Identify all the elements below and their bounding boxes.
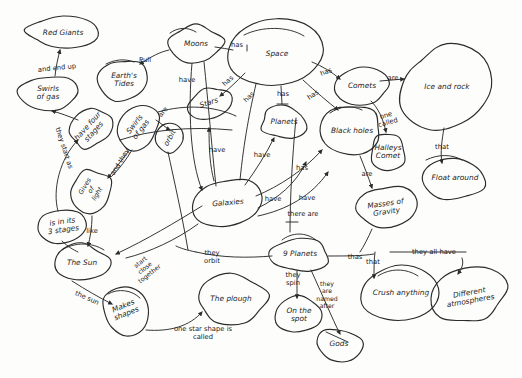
node-label-crush: Crush anything — [373, 288, 430, 297]
link-label-l_thas: thas — [348, 253, 363, 261]
node-label-moons: Moons — [184, 39, 208, 48]
node-label-ice_rock: Ice and rock — [424, 82, 470, 91]
node-red_giants[interactable]: Red Giants — [24, 16, 98, 48]
edge-galaxies-planets — [245, 138, 274, 185]
node-orbit[interactable]: orbit — [150, 118, 188, 157]
link-label-l_that_crush: that — [366, 258, 380, 266]
node-label-swirls_gas2: Swirlsof gas — [124, 112, 152, 140]
edge-crush-tophook — [378, 270, 418, 276]
node-on_the_spot[interactable]: On thespot — [275, 295, 322, 332]
node-label-swirls_gas: Swirlsof gas — [37, 84, 60, 101]
node-label-gives_light: Givesoflight — [77, 176, 106, 204]
link-label-l_one_star: one star shape iscalled — [174, 325, 233, 340]
node-the_sun[interactable]: The Sun — [55, 243, 111, 280]
node-black_holes[interactable]: Black holes — [320, 107, 379, 155]
nodes-layer: Red GiantsSwirlsof gasEarth'sTidesMoonsS… — [17, 16, 513, 362]
node-label-halleys: HalleysComet — [375, 143, 402, 160]
link-label-l_named_after: theyarenamedafter — [316, 280, 338, 309]
link-label-l_have_moons: have — [179, 76, 196, 84]
node-label-float_around: Float around — [432, 173, 479, 182]
link-label-l_the_sun: the sun — [74, 289, 101, 307]
link-label-l_pull: Pull — [139, 56, 151, 64]
concept-map-svg: Red GiantsSwirlsof gasEarth'sTidesMoonsS… — [0, 0, 522, 378]
node-label-comets: Comets — [348, 81, 376, 90]
link-label-l_have_gal2: have — [254, 151, 271, 159]
node-halleys[interactable]: HalleysComet — [371, 134, 405, 170]
edge-orbit-down — [168, 152, 188, 250]
edge-space-tophook — [244, 28, 304, 36]
edge-makes-tophook — [108, 291, 140, 298]
link-label-l_has_space4: has — [277, 90, 289, 98]
node-the_plough[interactable]: The plough — [199, 273, 270, 325]
node-label-masses_grav: Masses ofGravity — [367, 196, 407, 218]
concept-map-canvas: Red GiantsSwirlsof gasEarth'sTidesMoonsS… — [0, 0, 522, 378]
link-label-l_they_spin: theyspin — [285, 271, 300, 286]
link-label-l_has_comets: has — [319, 66, 334, 78]
node-label-is_3_stages: is in its3 stages — [46, 215, 80, 236]
node-label-earths_tides: Earth'sTides — [111, 71, 137, 88]
node-comets[interactable]: Comets — [334, 67, 389, 105]
node-label-the_sun: The Sun — [67, 258, 97, 267]
node-galaxies[interactable]: Galaxies — [190, 177, 264, 229]
link-label-l_has_space5: has — [306, 88, 321, 102]
edge-moons-galaxies2 — [204, 62, 216, 186]
node-earths_tides[interactable]: Earth'sTides — [97, 61, 147, 101]
link-label-l_and_end_up: and end up — [37, 62, 76, 74]
node-label-gods: Gods — [330, 339, 349, 348]
link-label-l_they_all: they all have — [412, 248, 456, 256]
node-swirls_gas[interactable]: Swirlsof gas — [17, 77, 78, 111]
node-label-nine_planets: 9 Planets — [283, 249, 317, 258]
node-label-planets: Planets — [270, 117, 297, 126]
node-planets[interactable]: Planets — [261, 105, 307, 138]
link-label-l_that_float: that — [435, 143, 449, 151]
node-label-diff_atmos: Differentatmospheres — [445, 284, 496, 309]
link-label-l_have_gal3: have — [265, 195, 282, 203]
link-label-l_are_swirl: are — [156, 105, 169, 119]
node-swirls_gas2[interactable]: Swirlsof gas — [108, 96, 167, 157]
link-label-l_start_close: startclosetogether — [127, 250, 162, 285]
node-label-on_the_spot: On thespot — [287, 306, 312, 323]
node-is_3_stages[interactable]: is in its3 stages — [36, 207, 89, 246]
link-label-l_has_space2: has — [221, 74, 236, 88]
edge-masses-down — [360, 229, 372, 252]
node-masses_grav[interactable]: Masses ofGravity — [353, 184, 420, 232]
edge-nineplanets-atmos — [458, 258, 463, 274]
node-ice_rock[interactable]: Ice and rock — [399, 43, 491, 130]
node-label-space: Space — [266, 49, 289, 58]
node-crush[interactable]: Crush anything — [361, 265, 439, 321]
link-label-l_are_icerock: are — [388, 74, 399, 82]
node-label-black_holes: Black holes — [331, 126, 373, 135]
node-label-makes_shapes: Makesshapes — [109, 297, 140, 323]
node-nine_planets[interactable]: 9 Planets — [269, 238, 329, 271]
link-label-l_there_are: there are — [287, 210, 318, 218]
edge-startclose-arc — [126, 224, 198, 258]
edge-swirls2-right — [158, 107, 236, 116]
link-label-l_has_gal: has — [296, 164, 308, 172]
node-float_around[interactable]: Float around — [422, 158, 486, 199]
link-label-l_has_space1: has — [231, 41, 243, 49]
link-label-l_have_gal1: have — [209, 146, 226, 154]
link-label-l_and_they: and they — [109, 147, 132, 177]
link-label-l_have_gal4: have — [299, 194, 316, 202]
node-stars[interactable]: Stars — [183, 81, 236, 125]
edge-sun-tophook — [62, 244, 104, 250]
link-label-l_they_orbit: theyorbit — [204, 249, 220, 264]
node-makes_shapes[interactable]: Makesshapes — [97, 280, 156, 343]
node-label-the_plough: The plough — [210, 294, 252, 303]
edge-theyorbit-hook — [176, 246, 196, 252]
node-label-stars: Stars — [198, 95, 219, 109]
link-label-l_like: like — [86, 227, 98, 235]
node-label-galaxies: Galaxies — [212, 197, 244, 209]
node-label-red_giants: Red Giants — [43, 28, 84, 37]
link-label-l_are_masses: are — [362, 170, 373, 178]
